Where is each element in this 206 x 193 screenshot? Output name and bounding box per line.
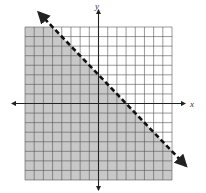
y-axis-label: y xyxy=(94,1,99,11)
x-axis-label: x xyxy=(189,99,194,109)
inequality-graph: x y xyxy=(0,0,206,193)
